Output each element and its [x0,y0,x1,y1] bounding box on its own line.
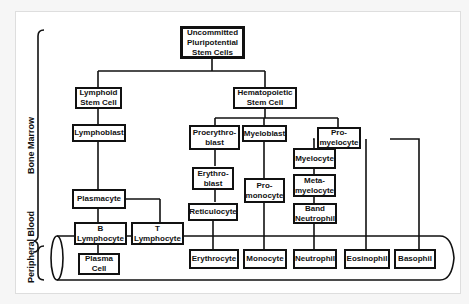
node-lymphoblast: Lymphoblast [72,124,126,142]
vessel-cylinder-end [51,236,63,280]
node-promyelocyte: Pro- myelocyte [317,127,361,149]
node-band-neutrophil: Band Neutrophil [293,203,337,224]
node-erythroblast: Erythro- blast [192,167,234,190]
peripheral-blood-bracket [38,246,44,280]
node-proerythroblast: Proerythro- blast [189,125,240,150]
node-reticulocyte: Reticulocyte [188,203,238,221]
node-myelocyte: Myelocyte [293,148,336,169]
node-neutrophil: Neutrophil [293,249,337,269]
node-lymphoid-stem-cell: Lymphoid Stem Cell [75,87,122,109]
node-metamyelocyte: Meta- myelocyte [293,174,336,197]
node-myeloblast: Myeloblast [242,125,287,142]
node-t-lymphocyte: T Lymphocyte [131,222,184,245]
peripheral-blood-label: Peripheral Blood [26,211,36,283]
node-eosinophil: Eosinophil [344,249,390,269]
node-promonocyte: Pro- monocyte [244,178,285,203]
node-monocyte: Monocyte [243,249,287,269]
node-hematopoietic-stem-cell: Hematopoietic Stem Cell [233,87,297,109]
bone-marrow-label: Bone Marrow [26,117,36,174]
node-plasmacyte: Plasmacyte [72,189,126,209]
node-plasma-cell: Plasma Cell [78,253,120,275]
node-b-lymphocyte: B Lymphocyte [74,222,127,245]
node-basophil: Basophil [394,249,436,269]
node-erythrocyte: Erythrocyte [189,249,239,269]
node-uncommitted-stem-cells: Uncommitted Pluripotential Stem Cells [180,26,245,59]
